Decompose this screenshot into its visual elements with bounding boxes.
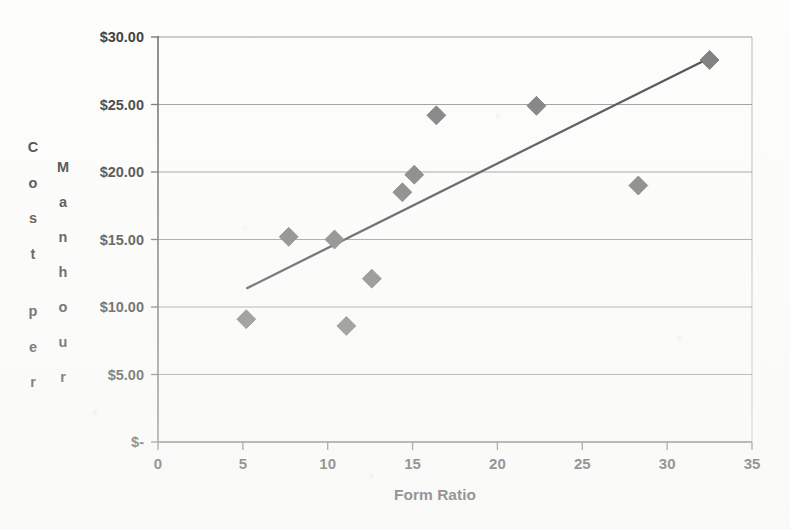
scatter-plot: $-$5.00$10.00$15.00$20.00$25.00$30.00 05… bbox=[0, 0, 790, 529]
gridlines bbox=[158, 37, 752, 442]
data-point-marker bbox=[337, 316, 356, 335]
data-point-marker bbox=[629, 176, 648, 195]
trendline bbox=[247, 58, 709, 288]
y-tick-label-0: $- bbox=[131, 434, 144, 450]
y-tick-label-2: $10.00 bbox=[100, 299, 144, 315]
x-axis-tick-labels: 05101520253035 bbox=[154, 455, 761, 472]
x-tick-label-6: 30 bbox=[659, 455, 676, 472]
y-axis-ticks bbox=[151, 37, 158, 442]
y-tick-label-1: $5.00 bbox=[108, 367, 144, 383]
data-point-marker bbox=[237, 310, 256, 329]
x-tick-label-1: 5 bbox=[239, 455, 247, 472]
y-tick-label-3: $15.00 bbox=[100, 232, 144, 248]
data-point-marker bbox=[427, 106, 446, 125]
y-axis-title-col1-char-2: s bbox=[29, 210, 37, 226]
data-point-marker bbox=[405, 165, 424, 184]
y-axis-title: CostperManhour bbox=[28, 139, 69, 390]
trendline-segment bbox=[247, 58, 709, 288]
x-tick-label-7: 35 bbox=[744, 455, 761, 472]
data-point-marker bbox=[393, 183, 412, 202]
y-axis-title-col2-char-4: o bbox=[59, 299, 68, 315]
data-point-marker bbox=[279, 227, 298, 246]
x-axis-title: Form Ratio bbox=[394, 486, 476, 503]
y-axis-title-col2-char-5: u bbox=[59, 334, 68, 350]
y-axis-title-col1-char-5: e bbox=[29, 339, 37, 355]
x-axis-ticks bbox=[158, 442, 752, 450]
chart-container: $-$5.00$10.00$15.00$20.00$25.00$30.00 05… bbox=[0, 0, 790, 529]
y-tick-label-6: $30.00 bbox=[100, 29, 144, 45]
y-axis-tick-labels: $-$5.00$10.00$15.00$20.00$25.00$30.00 bbox=[100, 29, 145, 450]
y-tick-label-4: $20.00 bbox=[100, 164, 144, 180]
y-axis-title-col1-char-6: r bbox=[30, 374, 36, 390]
x-tick-label-5: 25 bbox=[574, 455, 591, 472]
x-tick-label-0: 0 bbox=[154, 455, 162, 472]
y-axis-title-col1-char-1: o bbox=[29, 175, 38, 191]
data-point-marker bbox=[700, 50, 719, 69]
x-axis-title-text: Form Ratio bbox=[394, 486, 476, 503]
y-axis-title-col2-char-3: h bbox=[59, 264, 68, 280]
y-axis-title-col1-char-3: t bbox=[31, 246, 36, 262]
data-point-marker bbox=[362, 269, 381, 288]
y-axis-title-col2-char-0: M bbox=[57, 159, 69, 175]
y-axis-title-col1-char-0: C bbox=[28, 139, 39, 155]
y-axis-title-col2-char-6: r bbox=[60, 369, 66, 385]
x-tick-label-4: 20 bbox=[489, 455, 506, 472]
data-point-marker bbox=[325, 230, 344, 249]
x-tick-label-2: 10 bbox=[319, 455, 336, 472]
y-axis-title-col2-char-2: n bbox=[59, 229, 68, 245]
y-axis-title-col1-char-4: p bbox=[29, 303, 38, 319]
data-point-marker bbox=[527, 96, 546, 115]
data-points bbox=[237, 50, 719, 335]
y-tick-label-5: $25.00 bbox=[100, 97, 144, 113]
y-axis-title-col2-char-1: a bbox=[59, 194, 68, 210]
x-tick-label-3: 15 bbox=[404, 455, 421, 472]
